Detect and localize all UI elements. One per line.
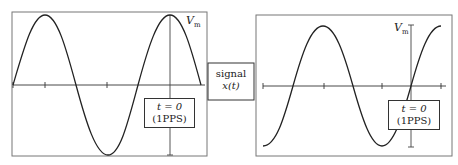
signal-function-label: x(t) [208, 80, 254, 92]
right-amplitude-label: Vm [394, 21, 409, 36]
left-t0-box: t = 0 (1PPS) [144, 98, 195, 128]
right-t0-label: t = 0 [401, 103, 426, 115]
left-amplitude-label: Vm [186, 14, 201, 29]
right-panel-frame [256, 15, 452, 156]
signal-block-label: signal x(t) [208, 68, 254, 92]
left-t0-label: t = 0 [157, 101, 182, 113]
left-panel-frame [12, 12, 207, 156]
right-1pps-label: (1PPS) [397, 115, 431, 127]
signal-label: signal [208, 68, 254, 80]
left-1pps-label: (1PPS) [152, 113, 186, 125]
right-t0-box: t = 0 (1PPS) [388, 100, 440, 130]
